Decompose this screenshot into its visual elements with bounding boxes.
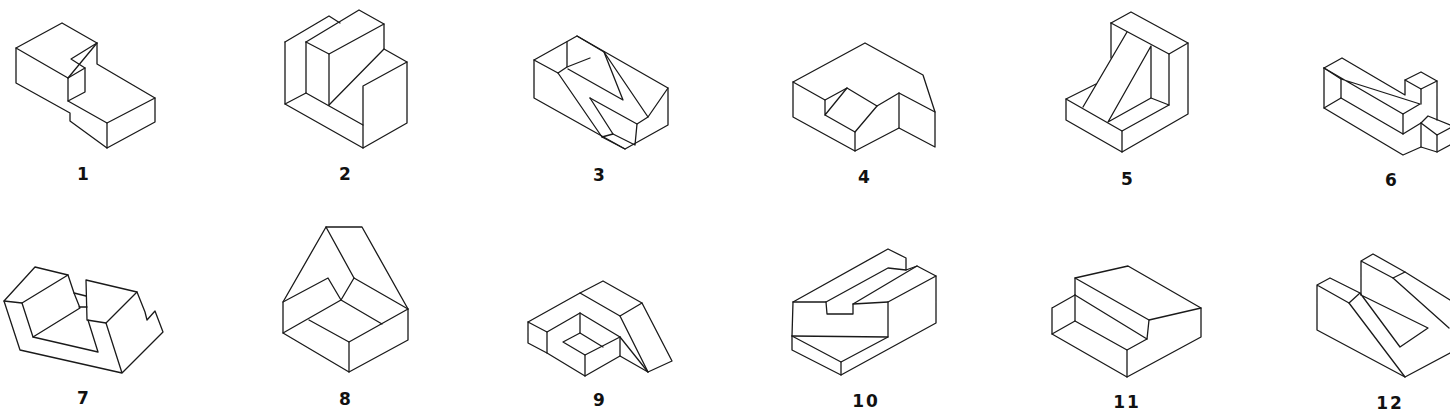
figure-edge xyxy=(1324,68,1450,155)
figure-edge xyxy=(4,280,163,373)
figure-edge xyxy=(580,333,603,347)
isometric-figure-7 xyxy=(4,267,163,373)
figure-edge xyxy=(792,336,888,337)
figure-label-10: 10 xyxy=(852,391,880,411)
figure-edge xyxy=(283,278,408,309)
figure-edge xyxy=(1361,254,1405,295)
figure-label-3: 3 xyxy=(593,165,607,185)
figure-label-1: 1 xyxy=(77,164,91,184)
figure-edge xyxy=(1421,123,1450,135)
figure-edge xyxy=(1151,98,1169,105)
isometric-figure-9 xyxy=(528,281,672,376)
figure-edge xyxy=(567,58,590,67)
figure-edge xyxy=(604,52,668,117)
figure-label-12: 12 xyxy=(1376,393,1404,412)
figure-edge xyxy=(33,320,98,352)
figure-edge xyxy=(793,82,935,112)
isometric-figure-10 xyxy=(792,249,936,375)
figure-edge xyxy=(283,227,408,372)
figure-edge xyxy=(309,309,408,342)
figure-label-6: 6 xyxy=(1385,170,1399,190)
isometric-figure-2 xyxy=(285,10,407,148)
figure-edge xyxy=(1405,80,1437,89)
figure-edge xyxy=(792,302,888,362)
isometric-figure-11 xyxy=(1052,266,1201,377)
figure-edge xyxy=(1360,293,1428,347)
isometric-figure-12 xyxy=(1317,254,1450,377)
figure-edge xyxy=(1317,278,1450,377)
isometric-figure-1 xyxy=(16,23,155,148)
figure-edge xyxy=(1075,295,1149,339)
figure-edge xyxy=(825,106,877,132)
figure-label-11: 11 xyxy=(1113,392,1141,412)
figure-edge xyxy=(1108,46,1151,122)
figure-edge xyxy=(74,293,86,296)
isometric-figure-5 xyxy=(1066,12,1188,152)
isometric-figure-6 xyxy=(1324,58,1450,155)
figure-label-5: 5 xyxy=(1121,169,1135,189)
figure-edge xyxy=(613,124,637,145)
figure-edge xyxy=(326,227,354,278)
figure-edge xyxy=(1349,303,1405,377)
figure-edge xyxy=(68,78,155,123)
figure-edge xyxy=(826,266,917,314)
figure-edge xyxy=(1405,272,1450,300)
figure-edge xyxy=(558,73,625,149)
isometric-figure-4 xyxy=(793,43,935,151)
figure-edge xyxy=(106,292,137,323)
figure-edge xyxy=(534,36,668,149)
figure-edge xyxy=(306,24,384,54)
figure-edge xyxy=(285,42,306,104)
figure-edge xyxy=(1341,98,1450,134)
isometric-figure-3 xyxy=(534,36,668,149)
figure-edge xyxy=(329,49,384,105)
figure-edge xyxy=(1075,321,1147,350)
isometric-figure-8 xyxy=(283,227,408,372)
figure-edge xyxy=(363,62,407,125)
figure-label-7: 7 xyxy=(77,388,91,408)
figure-edge xyxy=(793,43,935,151)
figure-edge xyxy=(825,88,847,115)
figure-edge xyxy=(283,300,382,333)
figure-edge xyxy=(1393,278,1449,328)
figure-edge xyxy=(580,293,642,316)
figure-edge xyxy=(4,267,68,303)
figure-edge xyxy=(793,268,906,302)
figure-edge xyxy=(22,275,80,337)
figure-label-9: 9 xyxy=(593,390,607,410)
figure-label-4: 4 xyxy=(858,167,872,187)
figure-edge xyxy=(1075,278,1201,320)
figure-label-2: 2 xyxy=(339,164,353,184)
isometric-drawings-canvas xyxy=(0,0,1450,412)
figure-label-8: 8 xyxy=(339,389,353,409)
figure-edge xyxy=(1083,32,1127,107)
figure-edge xyxy=(1122,54,1169,131)
figure-edge xyxy=(1324,68,1341,108)
figure-edge xyxy=(528,281,672,372)
